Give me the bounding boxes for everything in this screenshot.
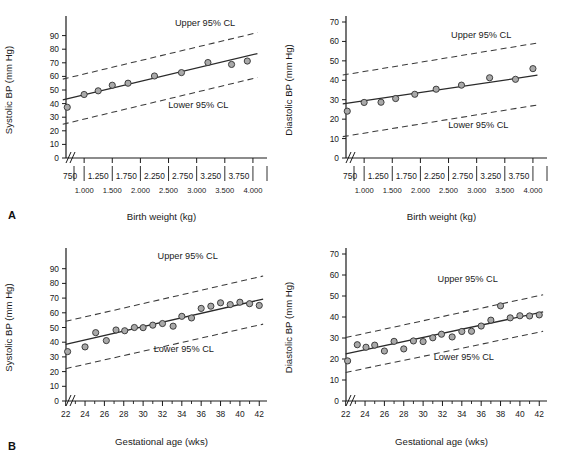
data-point	[487, 75, 493, 81]
x-tick-label: 38	[216, 409, 226, 419]
upper-confidence-limit-line	[346, 295, 543, 338]
y-tick-label: 40	[330, 312, 340, 322]
x-tick-label-group: 2224262830323436384042	[61, 409, 264, 419]
data-point	[420, 338, 426, 344]
upper-confidence-limit-line	[66, 276, 263, 321]
x-edge-label: 4.000	[243, 186, 262, 195]
data-point	[449, 334, 455, 340]
y-tick-label: 30	[330, 95, 340, 105]
y-tick-label: 80	[50, 278, 60, 288]
x-bin-label: 3.250	[200, 171, 221, 181]
panel-a-systolic-svg: 0102030405060708090Systolic BP (mm Hg)75…	[0, 0, 281, 232]
x-edge-label: 2.000	[411, 186, 430, 195]
data-point	[401, 346, 407, 352]
y-tick-label: 20	[330, 354, 340, 364]
data-point	[458, 82, 464, 88]
y-tick-label: 60	[330, 36, 340, 46]
data-point	[151, 73, 157, 79]
x-edge-label: 1.000	[75, 186, 94, 195]
x-tick-label: 32	[158, 409, 168, 419]
data-point	[438, 331, 444, 337]
data-point	[244, 58, 250, 64]
x-tick-label: 32	[438, 409, 448, 419]
data-point	[170, 323, 176, 329]
x-tick-label: 40	[515, 409, 525, 419]
y-tick-group: 010203040506070	[330, 249, 346, 406]
x-edge-label: 3.500	[495, 186, 514, 195]
data-point	[65, 349, 71, 355]
data-point	[81, 91, 87, 97]
data-point	[354, 342, 360, 348]
data-point	[393, 95, 399, 101]
x-tick-label-group: 2224262830323436384042	[341, 409, 544, 419]
panel-b-systolic-svg: 0102030405060708090Systolic BP (mm Hg)22…	[0, 232, 281, 463]
data-point	[93, 330, 99, 336]
panel-a-diastolic-svg: 010203040506070Diastolic BP (mm Hg)7501.…	[280, 0, 561, 232]
chart-panel-a-systolic: 0102030405060708090Systolic BP (mm Hg)75…	[0, 0, 281, 232]
y-tick-label: 80	[50, 44, 60, 54]
data-point	[433, 86, 439, 92]
y-tick-label: 0	[334, 153, 339, 163]
x-edge-label: 1.500	[103, 186, 122, 195]
x-bin-group: 7501.2501.7502.2502.7503.2503.7501.0001.…	[63, 166, 267, 195]
data-point	[131, 324, 137, 330]
x-tick-group	[346, 401, 540, 406]
x-tick-label: 40	[235, 409, 245, 419]
data-point	[344, 108, 350, 114]
data-point	[512, 76, 518, 82]
upper-confidence-limit-line	[63, 33, 258, 80]
data-point	[361, 99, 367, 105]
x-edge-label: 3.000	[187, 186, 206, 195]
x-tick-label: 24	[80, 409, 90, 419]
x-axis-title: Gestational age (wks)	[395, 436, 488, 447]
x-bin-label: 3.250	[480, 171, 501, 181]
data-point	[430, 335, 436, 341]
x-bin-label: 750	[343, 171, 357, 181]
x-tick-label: 34	[177, 409, 187, 419]
panel-label-a: A	[8, 209, 16, 221]
x-tick-label: 38	[496, 409, 506, 419]
y-tick-label: 0	[54, 153, 59, 163]
y-tick-group: 0102030405060708090	[50, 264, 66, 406]
data-point	[246, 301, 252, 307]
data-point	[507, 315, 513, 321]
x-tick-label: 42	[255, 409, 265, 419]
x-edge-label: 4.000	[523, 186, 542, 195]
y-tick-label: 50	[50, 85, 60, 95]
x-tick-label: 28	[119, 409, 129, 419]
data-point	[459, 328, 465, 334]
data-point	[256, 302, 262, 308]
axes	[66, 16, 267, 158]
x-edge-label: 3.000	[467, 186, 486, 195]
y-tick-label: 70	[330, 17, 340, 27]
data-point	[159, 320, 165, 326]
x-bin-label: 2.250	[144, 171, 165, 181]
data-point	[410, 338, 416, 344]
y-tick-group: 0102030405060708090	[50, 31, 66, 163]
data-point	[208, 303, 214, 309]
x-tick-label: 26	[100, 409, 110, 419]
x-tick-label: 42	[535, 409, 545, 419]
x-axis-title: Gestational age (wks)	[115, 436, 208, 447]
x-tick-label: 26	[380, 409, 390, 419]
x-axis-title: Birth weight (kg)	[127, 211, 196, 222]
y-tick-label: 60	[50, 71, 60, 81]
upper-cl-annotation: Upper 95% CL	[175, 18, 235, 28]
data-point	[179, 313, 185, 319]
upper-cl-annotation: Upper 95% CL	[451, 30, 511, 40]
data-point	[526, 313, 532, 319]
y-tick-label: 10	[50, 139, 60, 149]
y-tick-label: 20	[330, 114, 340, 124]
lower-cl-annotation: Lower 95% CL	[168, 100, 228, 110]
x-edge-label: 2.500	[439, 186, 458, 195]
data-point	[95, 88, 101, 94]
x-tick-group	[364, 158, 533, 163]
y-tick-label: 0	[54, 396, 59, 406]
y-tick-label: 40	[330, 75, 340, 85]
data-point	[488, 317, 494, 323]
y-tick-label: 10	[50, 381, 60, 391]
x-tick-group	[66, 401, 260, 406]
y-tick-label: 70	[50, 58, 60, 68]
data-point	[391, 338, 397, 344]
y-axis-title: Systolic BP (mm Hg)	[3, 46, 14, 134]
